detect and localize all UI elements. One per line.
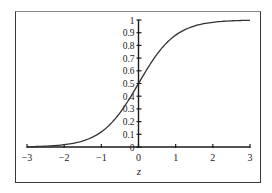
x-tick-label: 3 xyxy=(248,152,253,163)
y-tick-label: 0.7 xyxy=(123,54,135,64)
x-tick-label: −2 xyxy=(59,152,70,163)
x-tick-label: 2 xyxy=(210,152,215,163)
y-tick-label: 0.5 xyxy=(123,79,135,89)
x-tick-label: −1 xyxy=(96,152,107,163)
y-tick-label: 0.8 xyxy=(123,41,135,51)
x-tick-label: −3 xyxy=(22,152,33,163)
x-tick-label: 0 xyxy=(136,152,141,163)
chart-plot-area: −3−2−10123 00.10.20.30.40.50.60.70.80.91… xyxy=(0,0,272,193)
x-axis-label: z xyxy=(136,165,142,177)
y-tick-label: 0 xyxy=(130,143,135,153)
y-tick-label: 0.6 xyxy=(123,66,135,76)
y-tick-label: 0.9 xyxy=(123,28,135,38)
y-tick-label: 0.1 xyxy=(123,130,135,140)
y-tick-label: 0.2 xyxy=(123,117,135,127)
x-tick-label: 1 xyxy=(173,152,178,163)
y-tick-label: 1 xyxy=(130,16,135,26)
